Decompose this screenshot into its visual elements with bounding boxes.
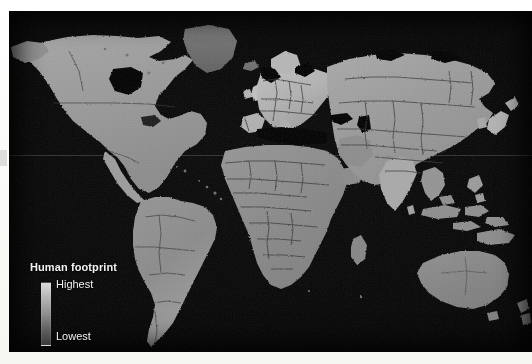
scan-edge-artifact xyxy=(0,150,7,166)
legend-gradient-bar xyxy=(41,282,51,346)
figure-page: Human footprint Highest Lowest xyxy=(0,0,532,364)
world-map-plate: Human footprint Highest Lowest xyxy=(9,11,532,352)
legend-label-highest: Highest xyxy=(56,278,93,290)
map-legend: Human footprint Highest Lowest xyxy=(30,252,145,352)
scan-seam-line xyxy=(9,155,532,156)
legend-label-lowest: Lowest xyxy=(56,330,91,342)
legend-title: Human footprint xyxy=(30,261,117,273)
